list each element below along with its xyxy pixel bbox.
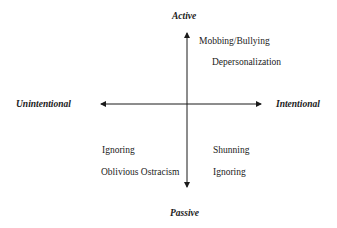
- quadrant-item-oblivious-ostracism: Oblivious Ostracism: [101, 168, 179, 178]
- axis-label-unintentional: Unintentional: [16, 100, 71, 110]
- quadrant-item-depersonalization: Depersonalization: [212, 58, 281, 68]
- axis-label-passive: Passive: [170, 209, 199, 219]
- quadrant-item-shunning: Shunning: [213, 146, 249, 156]
- quadrant-item-ignoring-unintentional: Ignoring: [102, 146, 135, 156]
- axis-label-active: Active: [172, 12, 196, 22]
- axes-diagram: [0, 0, 337, 228]
- quadrant-item-mobbing-bullying: Mobbing/Bullying: [199, 37, 270, 47]
- axis-label-intentional: Intentional: [276, 100, 320, 110]
- quadrant-item-ignoring-intentional: Ignoring: [213, 168, 246, 178]
